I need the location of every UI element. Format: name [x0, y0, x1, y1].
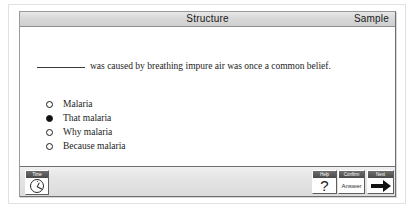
option-row-3[interactable]: Why malaria [46, 126, 126, 138]
option-row-4[interactable]: Because malaria [46, 140, 126, 152]
clock-minute-hand [37, 186, 42, 189]
arrow-right-icon [371, 180, 391, 192]
question-sentence: was caused by breathing impure air was o… [90, 61, 331, 71]
question-text: was caused by breathing impure air was o… [37, 60, 382, 72]
arrow-head [383, 180, 391, 192]
help-button-caption: Help [313, 171, 336, 178]
radio-button-icon-3[interactable] [46, 129, 53, 136]
content-area: was caused by breathing impure air was o… [20, 28, 395, 165]
clock-tick [37, 181, 38, 183]
bottom-toolbar: Time Help ? Confirm Answer [20, 167, 395, 196]
page-title: Structure [20, 13, 395, 24]
option-label-4: Because malaria [63, 141, 126, 151]
time-button-body [26, 178, 48, 194]
title-bar: Structure Sample [20, 12, 395, 27]
answer-options-list: Malaria That malaria Why malaria Because… [46, 98, 126, 154]
radio-button-icon-1[interactable] [46, 101, 53, 108]
clock-icon [30, 179, 44, 193]
confirm-button-label: Answer [341, 183, 361, 189]
option-label-1: Malaria [63, 99, 93, 109]
time-button[interactable]: Time [25, 170, 49, 195]
next-button[interactable]: Next [367, 170, 394, 194]
option-row-2[interactable]: That malaria [46, 112, 126, 124]
main-panel: Structure Sample was caused by breathing… [19, 11, 396, 197]
question-mark-icon: ? [320, 178, 328, 193]
time-button-caption: Time [26, 171, 48, 178]
option-label-3: Why malaria [63, 127, 112, 137]
option-row-1[interactable]: Malaria [46, 98, 126, 110]
help-button[interactable]: Help ? [312, 170, 337, 194]
confirm-button-caption: Confirm [339, 171, 364, 178]
next-button-caption: Next [368, 171, 393, 178]
quiz-application-window: Structure Sample was caused by breathing… [0, 0, 413, 208]
sample-label: Sample [354, 13, 389, 24]
next-button-body [368, 178, 393, 193]
radio-button-icon-2[interactable] [46, 115, 53, 122]
confirm-answer-button[interactable]: Confirm Answer [338, 170, 365, 194]
confirm-button-body: Answer [339, 178, 364, 193]
help-button-body: ? [313, 178, 336, 193]
radio-button-icon-4[interactable] [46, 143, 53, 150]
option-label-2: That malaria [63, 113, 111, 123]
answer-blank [37, 67, 85, 68]
